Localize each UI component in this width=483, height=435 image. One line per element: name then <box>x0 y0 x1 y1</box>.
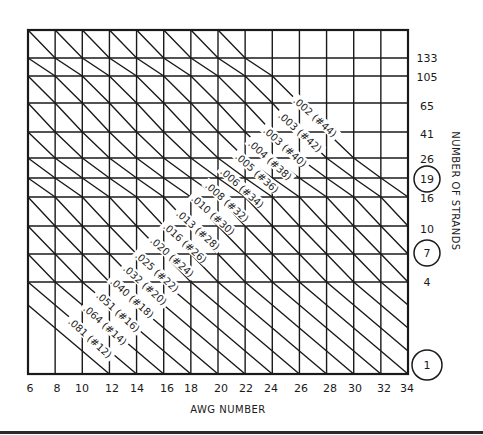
y-tick-label: 26 <box>420 153 434 166</box>
x-tick-label: 6 <box>27 382 34 395</box>
y-tick-label: 65 <box>420 100 434 113</box>
y-tick-label: 105 <box>417 71 438 84</box>
x-tick-label: 10 <box>75 382 89 395</box>
chart-grid <box>28 30 408 374</box>
y-tick-label: 16 <box>420 192 434 205</box>
x-tick-label: 26 <box>294 382 308 395</box>
x-tick-label: 18 <box>184 382 198 395</box>
x-tick-label: 24 <box>264 382 278 395</box>
y-tick-label: 133 <box>417 52 438 65</box>
x-tick-label: 32 <box>377 382 391 395</box>
x-tick-label: 30 <box>348 382 362 395</box>
y-tick-label: 7 <box>424 247 431 260</box>
x-tick-label: 16 <box>160 382 174 395</box>
x-tick-label: 12 <box>105 382 119 395</box>
y-tick-label: 1 <box>424 359 431 372</box>
x-axis-ticks: 6810121416182022242628303234 <box>27 382 415 395</box>
page-divider <box>0 431 483 434</box>
x-tick-label: 22 <box>239 382 253 395</box>
y-axis-title: NUMBER OF STRANDS <box>450 131 461 250</box>
y-axis-ticks: 133105654126191610741 <box>412 52 442 380</box>
x-tick-label: 20 <box>214 382 228 395</box>
stranding-chart: .002 (#44).003 (#42).003 (#40).004 (#38)… <box>0 0 483 435</box>
y-tick-label: 10 <box>420 223 434 236</box>
x-tick-label: 28 <box>323 382 337 395</box>
x-tick-label: 14 <box>130 382 144 395</box>
y-tick-label: 4 <box>424 276 431 289</box>
y-tick-label: 19 <box>420 173 434 186</box>
x-axis-title: AWG NUMBER <box>190 404 266 415</box>
x-tick-label: 8 <box>54 382 61 395</box>
x-tick-label: 34 <box>400 382 414 395</box>
y-tick-label: 41 <box>420 128 434 141</box>
